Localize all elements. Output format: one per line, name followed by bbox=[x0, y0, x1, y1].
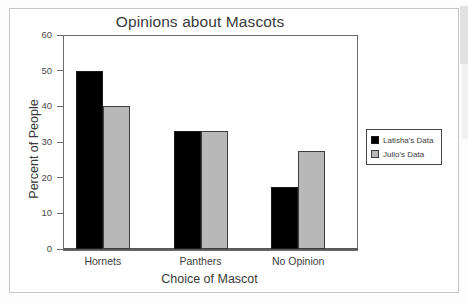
x-axis-tick-label: Hornets bbox=[48, 255, 158, 267]
y-axis-tick bbox=[57, 177, 64, 178]
x-axis-tick-label: No Opinion bbox=[243, 255, 353, 267]
y-axis-tick-label: 40 bbox=[20, 100, 52, 111]
y-axis-tick-label: 10 bbox=[20, 207, 52, 218]
y-axis-tick bbox=[57, 142, 64, 143]
y-axis-tick-label: 60 bbox=[20, 29, 52, 40]
legend-item-label: Julio's Data bbox=[383, 150, 424, 159]
y-axis-tick bbox=[57, 35, 64, 36]
legend-swatch-icon bbox=[371, 150, 379, 158]
legend-item: Julio's Data bbox=[371, 148, 437, 160]
bar-panthers-series-0 bbox=[174, 131, 201, 249]
y-axis-tick-label: 0 bbox=[20, 243, 52, 254]
legend-item-label: Latisha's Data bbox=[383, 136, 433, 145]
y-axis-tick bbox=[57, 70, 64, 71]
legend-swatch-icon bbox=[371, 136, 379, 144]
legend-item: Latisha's Data bbox=[371, 134, 437, 146]
y-axis-tick bbox=[57, 249, 64, 250]
x-axis-title: Choice of Mascot bbox=[63, 272, 356, 286]
bar-hornets-series-1 bbox=[103, 106, 130, 249]
legend: Latisha's DataJulio's Data bbox=[366, 129, 442, 165]
chart-title: Opinions about Mascots bbox=[40, 13, 360, 31]
figure-root: Opinions about Mascots Percent of People… bbox=[0, 0, 468, 303]
bar-no-opinion-series-0 bbox=[271, 187, 298, 249]
y-axis-tick-label: 20 bbox=[20, 172, 52, 183]
bar-no-opinion-series-1 bbox=[298, 151, 325, 249]
x-axis-tick-label: Panthers bbox=[146, 255, 256, 267]
y-axis-tick-label: 50 bbox=[20, 65, 52, 76]
y-axis-tick bbox=[57, 106, 64, 107]
bar-hornets-series-0 bbox=[76, 71, 103, 249]
y-axis-tick-label: 30 bbox=[20, 136, 52, 147]
bar-panthers-series-1 bbox=[201, 131, 228, 249]
page-edge-artifact-lower bbox=[462, 64, 468, 139]
page-edge-artifact bbox=[460, 6, 468, 64]
y-axis-tick bbox=[57, 213, 64, 214]
